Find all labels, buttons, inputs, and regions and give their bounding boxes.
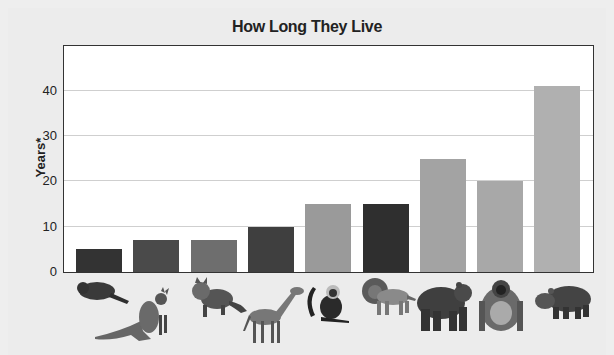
monkey-icon (303, 281, 353, 323)
kangaroo-icon (91, 287, 181, 343)
bar-bear (420, 159, 466, 272)
category-icons (63, 275, 594, 350)
gorilla-icon (477, 277, 525, 333)
lion-icon (361, 277, 417, 319)
hippo-icon (535, 281, 593, 321)
y-tick-label: 30 (27, 128, 57, 143)
fox-icon (189, 277, 249, 319)
chart-title: How Long They Live (0, 18, 614, 36)
bear-icon (415, 279, 473, 333)
y-tick-label: 0 (27, 264, 57, 279)
bar-monkey (305, 204, 351, 272)
giraffe-icon (243, 283, 307, 345)
y-tick-label: 40 (27, 83, 57, 98)
y-tick-label: 20 (27, 173, 57, 188)
bar-lion (363, 204, 409, 272)
bar-giraffe (248, 227, 294, 272)
bar-beaver (76, 249, 122, 272)
gridline (64, 90, 593, 91)
gridline (64, 135, 593, 136)
bar-gorilla (477, 181, 523, 272)
bar-fox (191, 240, 237, 272)
y-tick-label: 10 (27, 219, 57, 234)
plot-area (63, 45, 594, 273)
bar-kangaroo (133, 240, 179, 272)
bar-hippopotamus (534, 86, 580, 272)
